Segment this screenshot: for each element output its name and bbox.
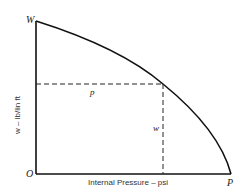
label-p: p	[90, 87, 95, 97]
label-W: W	[26, 14, 34, 25]
label-w: w	[153, 123, 159, 133]
label-P: P	[227, 177, 233, 188]
diagram-canvas	[0, 0, 247, 196]
label-origin: O	[26, 168, 33, 179]
y-axis-label: w – lb/lin ft	[13, 96, 22, 134]
interaction-curve	[36, 21, 231, 174]
x-axis-label: Internal Pressure – psi	[88, 178, 168, 187]
